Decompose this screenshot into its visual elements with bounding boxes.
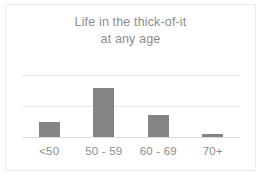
gridline-50 [22,106,240,107]
plot-area [22,75,240,137]
chart-title-line-1: Life in the thick-of-it [0,14,261,31]
bar-50-59[interactable] [93,88,114,137]
bar-60-69[interactable] [148,115,169,137]
bar-70-plus[interactable] [202,134,223,137]
category-axis: <50 50 - 59 60 - 69 70+ [22,143,240,163]
axis-baseline [22,137,240,138]
bar-lt-50[interactable] [39,122,60,137]
gridline-100 [22,75,240,76]
bar-chart-card: Life in the thick-of-it at any age <50 5… [0,0,261,175]
chart-title-line-2: at any age [0,31,261,48]
category-label-50-59: 50 - 59 [77,143,132,159]
category-label-60-69: 60 - 69 [131,143,186,159]
chart-title: Life in the thick-of-it at any age [0,14,261,48]
category-label-lt-50: <50 [22,143,77,159]
category-label-70-plus: 70+ [186,143,241,159]
